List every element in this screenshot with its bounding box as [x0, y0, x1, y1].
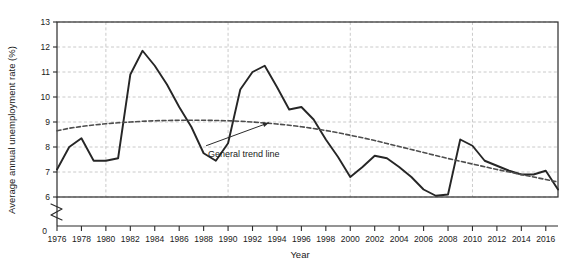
y-tick-label: 11 — [41, 67, 50, 77]
y-tick-label: 12 — [41, 42, 51, 52]
chart-container: 678910111213 197619781980198219841986198… — [0, 0, 582, 266]
y-tick-label: 8 — [45, 142, 50, 152]
x-tick-label: 1980 — [96, 234, 115, 244]
x-tick-label: 2002 — [365, 234, 384, 244]
x-tick-label: 2006 — [414, 234, 433, 244]
x-tick-label: 2012 — [487, 234, 506, 244]
y-tick-label: 13 — [41, 17, 51, 27]
x-tick-label: 1988 — [194, 234, 213, 244]
x-tick-label: 1986 — [170, 234, 189, 244]
y-axis-origin-label: 0 — [42, 226, 47, 236]
y-tick-label: 7 — [45, 167, 50, 177]
x-tick-label: 1998 — [316, 234, 335, 244]
x-tick-label: 2016 — [536, 234, 555, 244]
x-tick-label: 1994 — [267, 234, 286, 244]
y-tick-label: 10 — [41, 92, 51, 102]
x-tick-label: 1992 — [243, 234, 262, 244]
y-axis-title: Average annual unemployment rate (%) — [6, 46, 17, 214]
x-axis-title: Year — [290, 249, 309, 260]
x-tick-label: 2008 — [439, 234, 458, 244]
x-tick-label: 1976 — [48, 234, 67, 244]
x-tick-label: 2004 — [390, 234, 409, 244]
x-tick-label: 2014 — [512, 234, 531, 244]
x-tick-label: 2010 — [463, 234, 482, 244]
x-tick-label: 1982 — [121, 234, 140, 244]
x-tick-label: 2000 — [341, 234, 360, 244]
y-tick-label: 6 — [45, 192, 50, 202]
y-tick-label: 9 — [45, 117, 50, 127]
annotation-label-general-trend-line: General trend line — [208, 149, 280, 159]
x-tick-label: 1996 — [292, 234, 311, 244]
unemployment-rate-line-chart: 678910111213 197619781980198219841986198… — [0, 0, 582, 266]
x-tick-label: 1978 — [72, 234, 91, 244]
x-tick-label: 1990 — [219, 234, 238, 244]
x-tick-label: 1984 — [145, 234, 164, 244]
